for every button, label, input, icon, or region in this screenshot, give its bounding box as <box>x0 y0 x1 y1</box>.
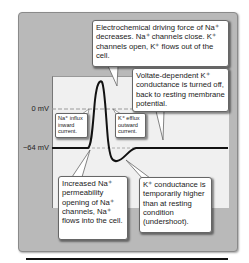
callout-k-conductance-off: Voltate-dependent K⁺ conductance is turn… <box>132 68 229 112</box>
callout-na-decrease: Electrochemical driving force of Na⁺ dec… <box>92 20 229 67</box>
callout-na-influx: Na⁺ influx inward current. <box>55 113 88 138</box>
depolarize-callout-tail <box>72 150 90 177</box>
undershoot-callout-tail <box>126 160 150 178</box>
top-callout-tail <box>108 66 118 86</box>
repolarize-callout-tail <box>156 111 164 140</box>
callout-k-efflux: K⁺ efflux outward current. <box>115 113 146 138</box>
bottom-rule-divider <box>26 258 228 260</box>
callout-undershoot: K⁺ conductance is temporarily higher tha… <box>139 177 212 233</box>
callout-na-permeability: Increased Na⁺ permeability opening of Na… <box>58 176 128 240</box>
